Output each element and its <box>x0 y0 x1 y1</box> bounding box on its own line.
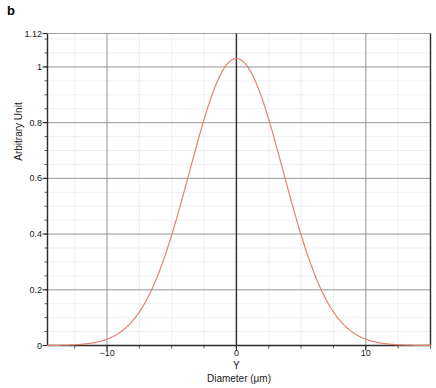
x-tick-label: 0 <box>234 348 239 358</box>
y-axis-title: Arbitrary Unit <box>13 67 24 197</box>
figure-panel-b: b 00.20.40.60.811.12 −10010 Y Arbitrary … <box>0 0 436 388</box>
x-tick-label: −10 <box>99 348 114 358</box>
data-curve <box>48 59 431 346</box>
y-tick-label: 0.2 <box>2 285 42 295</box>
axis-lines <box>48 34 431 346</box>
y-tick-label: 0.4 <box>2 229 42 239</box>
chart-canvas <box>0 0 436 388</box>
x-tick-label: 10 <box>361 348 371 358</box>
x-axis-title: Diameter (μm) <box>47 373 431 384</box>
y-tick-label: 1.12 <box>2 29 42 39</box>
minor-gridlines <box>48 34 431 346</box>
origin-annotation-y: Y <box>233 360 240 371</box>
major-gridlines <box>48 34 431 346</box>
y-tick-label: 0 <box>2 341 42 351</box>
